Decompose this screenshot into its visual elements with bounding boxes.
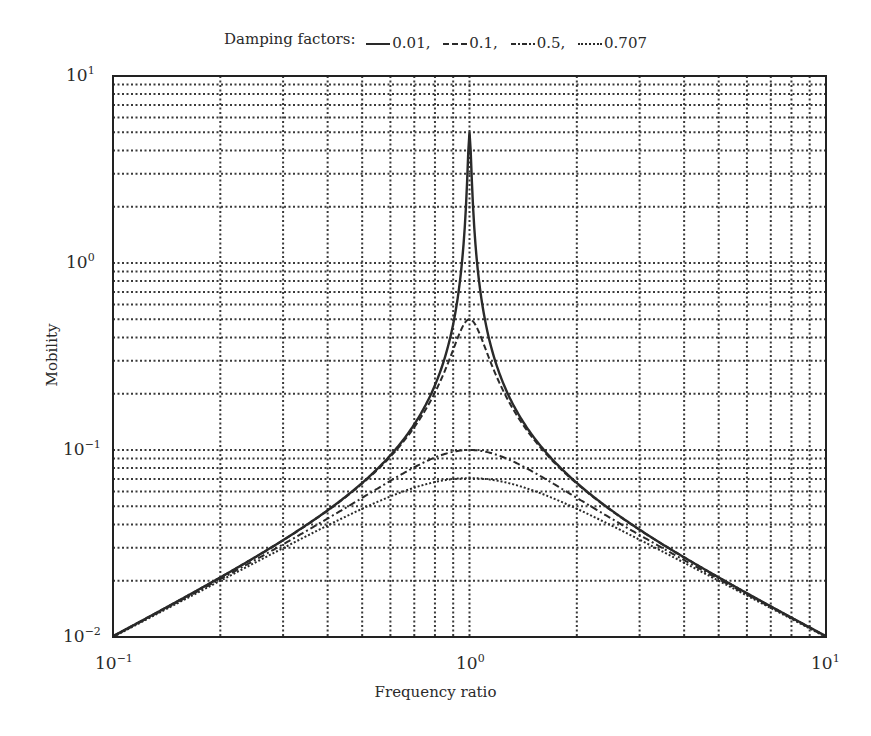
x-tick-label: 100 xyxy=(456,652,485,673)
y-tick-label: 10−2 xyxy=(63,625,101,646)
chart-plot xyxy=(0,0,871,736)
dashed-line-swatch-icon xyxy=(443,43,467,45)
y-tick-label: 10−1 xyxy=(63,438,101,459)
legend-entry-0.707: 0.707 xyxy=(576,34,647,52)
dashdot-line-swatch-icon xyxy=(511,43,535,45)
y-tick-label: 100 xyxy=(66,251,95,272)
legend-label: 0.707 xyxy=(604,34,647,52)
grid-lines xyxy=(113,76,826,637)
legend-entry-0.5: 0.5, xyxy=(509,34,572,52)
y-axis-label: Mobility xyxy=(43,324,61,387)
legend-label: 0.1, xyxy=(469,34,498,52)
x-tick-label: 101 xyxy=(811,652,840,673)
legend-label: 0.01, xyxy=(392,34,430,52)
legend-entry-0.1: 0.1, xyxy=(441,34,504,52)
legend-label: 0.5, xyxy=(537,34,566,52)
legend: Damping factors: 0.01, 0.1, 0.5, 0.707 xyxy=(0,30,871,52)
solid-line-swatch-icon xyxy=(366,43,390,45)
legend-title: Damping factors: xyxy=(224,30,356,48)
dotted-line-swatch-icon xyxy=(578,43,602,45)
y-tick-label: 101 xyxy=(66,64,95,85)
legend-entry-0.01: 0.01, xyxy=(364,34,436,52)
x-tick-label: 10−1 xyxy=(95,652,133,673)
x-axis-label: Frequency ratio xyxy=(0,683,871,701)
